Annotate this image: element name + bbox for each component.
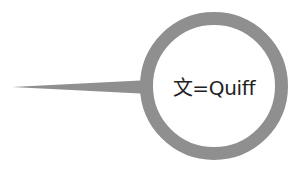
bubble-label: 文=Quiff <box>154 70 274 102</box>
bubble-tail <box>12 80 150 94</box>
